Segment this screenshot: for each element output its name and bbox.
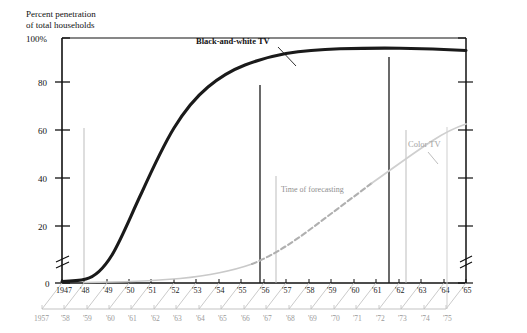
x-tick-black-8: '55 bbox=[237, 286, 246, 295]
time-of-forecasting-label: Time of forecasting bbox=[281, 185, 344, 194]
x-tick-black-16: '63 bbox=[417, 286, 426, 295]
x-axis-black-labels: 1947 '48 '49 '50 '51 '52 '53 '54 '55 '56… bbox=[56, 286, 471, 295]
x-tick-black-3: '50 bbox=[125, 286, 134, 295]
x-tick-gray-2: '59 bbox=[83, 314, 92, 323]
y-tick-label-0: 0 bbox=[45, 279, 50, 289]
x-tick-gray-13: '70 bbox=[331, 314, 340, 323]
x-tick-black-2: '49 bbox=[103, 286, 112, 295]
x-tick-gray-7: '64 bbox=[196, 314, 205, 323]
x-tick-gray-3: '60 bbox=[106, 314, 115, 323]
y-axis-title-line1: Percent penetration bbox=[26, 9, 96, 19]
x-tick-gray-5: '62 bbox=[151, 314, 160, 323]
x-tick-black-5: '52 bbox=[170, 286, 179, 295]
y-tick-label-80: 80 bbox=[38, 78, 48, 88]
y-tick-label-100: 100% bbox=[26, 34, 48, 44]
chart-container: Percent penetration of total households … bbox=[0, 0, 527, 333]
x-tick-gray-16: '73 bbox=[398, 314, 407, 323]
x-axis-gray-labels: 1957 '58 '59 '60 '61 '62 '63 '64 '65 '66… bbox=[34, 314, 452, 323]
x-tick-black-13: '60 bbox=[350, 286, 359, 295]
y-tick-label-40: 40 bbox=[38, 174, 48, 184]
x-tick-black-0: 1947 bbox=[56, 286, 72, 295]
x-tick-gray-6: '63 bbox=[173, 314, 182, 323]
x-tick-gray-9: '66 bbox=[241, 314, 250, 323]
color-tv-line-early bbox=[84, 264, 252, 283]
x-tick-gray-11: '68 bbox=[286, 314, 295, 323]
x-tick-black-15: '62 bbox=[395, 286, 404, 295]
x-tick-black-17: '64 bbox=[440, 286, 449, 295]
x-tick-black-14: '61 bbox=[372, 286, 381, 295]
x-tick-gray-17: '74 bbox=[421, 314, 430, 323]
x-tick-black-10: '57 bbox=[282, 286, 291, 295]
x-tick-gray-1: '58 bbox=[61, 314, 70, 323]
x-tick-gray-0: 1957 bbox=[34, 314, 49, 323]
x-tick-black-6: '53 bbox=[192, 286, 201, 295]
x-axis-gray-ticks bbox=[42, 305, 446, 309]
black-and-white-tv-leader-line bbox=[278, 47, 296, 66]
x-tick-black-18: '65 bbox=[462, 286, 471, 295]
x-tick-black-11: '58 bbox=[305, 286, 314, 295]
x-tick-gray-10: '67 bbox=[263, 314, 272, 323]
color-tv-label: Color TV bbox=[408, 139, 442, 149]
x-tick-gray-8: '65 bbox=[218, 314, 227, 323]
black-and-white-tv-label: Black-and-white TV bbox=[196, 36, 271, 46]
x-tick-gray-14: '71 bbox=[353, 314, 362, 323]
y-axis-title-line2: of total households bbox=[26, 20, 95, 30]
color-tv-line-forecast-dashed bbox=[252, 183, 372, 264]
x-tick-gray-4: '61 bbox=[128, 314, 137, 323]
black-and-white-tv-line bbox=[62, 48, 466, 281]
x-tick-gray-18: '75 bbox=[443, 314, 452, 323]
tv-penetration-chart: Percent penetration of total households … bbox=[0, 0, 527, 333]
color-tv-line-late bbox=[372, 124, 466, 183]
x-tick-black-12: '59 bbox=[327, 286, 336, 295]
x-tick-black-1: '48 bbox=[80, 286, 89, 295]
y-tick-label-20: 20 bbox=[38, 222, 48, 232]
y-tick-label-60: 60 bbox=[38, 126, 48, 136]
x-tick-gray-12: '69 bbox=[308, 314, 317, 323]
x-tick-black-9: '56 bbox=[260, 286, 269, 295]
x-tick-gray-15: '72 bbox=[376, 314, 385, 323]
x-tick-black-7: '54 bbox=[215, 286, 224, 295]
color-tv-leader-line bbox=[428, 152, 438, 164]
x-tick-black-4: '51 bbox=[147, 286, 156, 295]
